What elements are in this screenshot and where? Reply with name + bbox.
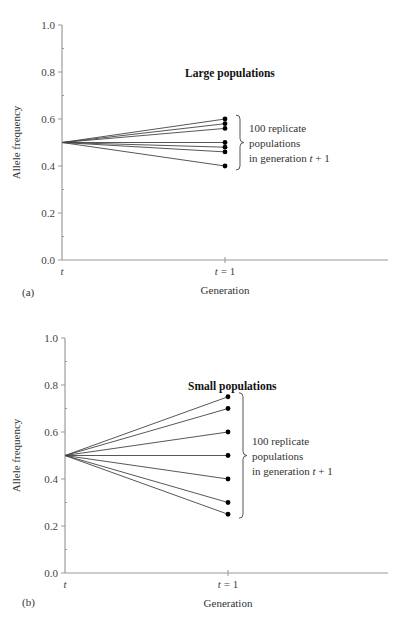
replicate-point — [226, 477, 231, 482]
x-tick-label-t: t — [63, 578, 67, 590]
panel-label-b: (b) — [22, 596, 35, 608]
replicate-point — [226, 453, 231, 458]
y-tick-label: 0.4 — [44, 473, 58, 485]
y-tick-label: 0.2 — [44, 520, 58, 532]
x-tick-label-t1: t = 1 — [218, 578, 238, 590]
replicate-point — [226, 500, 231, 505]
y-tick-label: 1.0 — [44, 332, 58, 344]
replicate-line — [65, 432, 228, 456]
replicate-point — [226, 394, 231, 399]
annotation-line2: populations — [252, 450, 303, 462]
brace — [239, 393, 247, 519]
replicate-point — [226, 430, 231, 435]
replicate-line — [65, 409, 228, 456]
annotation-line3: in generation t + 1 — [252, 465, 333, 477]
y-tick-label: 0.6 — [44, 426, 58, 438]
replicate-line — [65, 456, 228, 503]
chart-panel-b: 0.00.20.40.60.81.0tt = 1GenerationAllele… — [0, 0, 408, 630]
replicate-point — [226, 406, 231, 411]
chart-b-plot: 0.00.20.40.60.81.0tt = 1GenerationAllele… — [0, 0, 408, 630]
plot-title: Small populations — [188, 380, 277, 393]
replicate-line — [65, 397, 228, 456]
annotation-line1: 100 replicate — [252, 435, 309, 447]
x-axis-title: Generation — [204, 597, 253, 609]
replicate-line — [65, 456, 228, 480]
y-tick-label: 0.8 — [44, 379, 58, 391]
replicate-point — [226, 512, 231, 517]
y-tick-label: 0.0 — [44, 567, 58, 579]
y-axis-title: Allele frequency — [10, 418, 22, 492]
replicate-line — [65, 456, 228, 515]
